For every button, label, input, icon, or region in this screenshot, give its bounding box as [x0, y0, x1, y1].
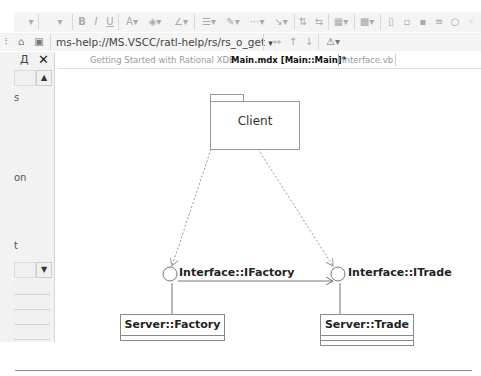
class-name: Server::Factory [121, 315, 224, 335]
class-name: Server::Trade [321, 315, 413, 335]
dependency-arrow[interactable] [172, 149, 211, 266]
operations-compartment [321, 340, 413, 345]
interface-lollipop-icon[interactable] [331, 267, 345, 281]
class-server-factory[interactable]: Server::Factory [120, 314, 225, 341]
package-name: Client [211, 114, 299, 128]
dependency-arrow[interactable] [258, 149, 333, 266]
interface-itrade-label[interactable]: Interface::ITrade [348, 266, 452, 279]
interface-ifactory-label[interactable]: Interface::IFactory [179, 266, 294, 279]
package-client[interactable]: Client [210, 101, 300, 150]
bottom-divider [15, 370, 472, 371]
class-server-trade[interactable]: Server::Trade [320, 314, 414, 346]
attributes-compartment [121, 335, 224, 340]
interface-lollipop-icon[interactable] [163, 267, 177, 281]
